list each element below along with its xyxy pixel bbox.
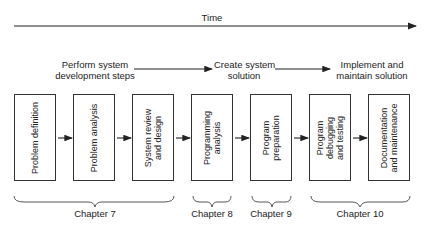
step-4-line2: analysis [212,110,222,164]
step-system-review: System reviewand design [132,94,174,181]
phase-label-3: Implement and maintain solution [332,59,412,81]
brace-chapter-10 [311,196,410,207]
step-3-line2: and design [153,108,163,167]
chapter-9-label: Chapter 9 [246,208,296,219]
phase-2-line1: Create system [214,59,274,70]
phase-2-line2: solution [214,70,274,81]
step-1-text: Problem definition [30,101,40,173]
step-7-line1: Documentation [379,103,389,172]
phase-label-2: Create system solution [214,59,274,81]
brace-chapter-8 [193,196,231,207]
step-7-line2: and maintenance [389,103,399,172]
phase-3-line1: Implement and [332,59,412,70]
step-6-line2: debugging [325,115,335,159]
step-2-text: Problem analysis [89,103,99,172]
step-problem-definition: Problem definition [14,94,56,181]
brace-chapter-7 [14,196,174,207]
step-5-line1: Program [261,115,271,161]
phase-label-1: Perform system development steps [55,59,135,81]
brace-chapter-9 [252,196,291,207]
chapter-7-label: Chapter 7 [65,208,125,219]
phase-1-line1: Perform system [55,59,135,70]
time-label: Time [195,12,229,23]
step-problem-analysis: Problem analysis [73,94,115,181]
chapter-10-label: Chapter 10 [330,208,390,219]
step-3-line1: System review [143,108,153,167]
step-program-preparation: Programpreparation [250,94,292,181]
step-program-debugging: Programdebuggingand testing [309,94,351,181]
chapter-8-label: Chapter 8 [187,208,237,219]
step-4-line1: Programming [202,110,212,164]
step-programming-analysis: Programminganalysis [191,94,233,181]
step-5-line2: preparation [271,115,281,161]
phase-3-line2: maintain solution [332,70,412,81]
step-6-line1: Program [315,115,325,159]
step-documentation: Documentationand maintenance [368,94,410,181]
phase-1-line2: development steps [55,70,135,81]
step-6-line3: and testing [335,115,345,159]
